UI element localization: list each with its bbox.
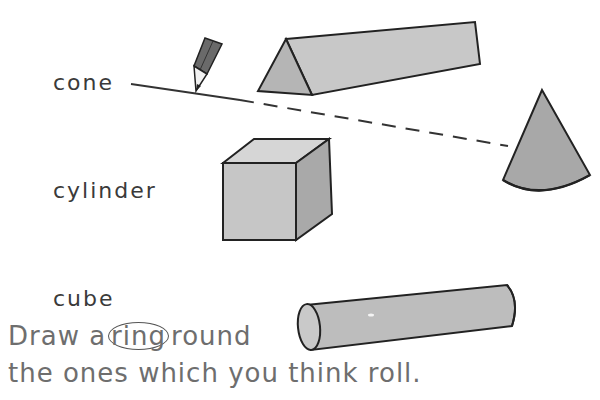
ring-example: ring (108, 322, 169, 350)
cube-shape (223, 139, 332, 240)
instruction-text-after: round (171, 321, 252, 351)
label-cube[interactable]: cube (53, 288, 115, 310)
triangular-prism-shape (258, 22, 480, 95)
cone-shape (503, 90, 590, 190)
cylinder-shape (296, 285, 515, 351)
label-cone[interactable]: cone (53, 72, 114, 94)
instruction-text-before: Draw a (8, 321, 106, 351)
label-cylinder[interactable]: cylinder (53, 180, 157, 202)
instruction-line-2: the ones which you think roll. (8, 360, 422, 386)
instruction-line-1: Draw aringround (8, 322, 252, 350)
worksheet: cone cylinder cube Draw aringround the o… (0, 0, 600, 400)
pencil-icon (194, 38, 222, 91)
